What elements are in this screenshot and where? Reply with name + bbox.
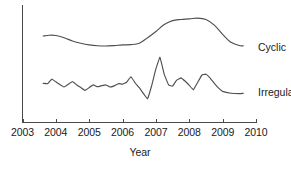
- data-series-group: [43, 18, 243, 99]
- series-line-irregular: [43, 57, 243, 98]
- x-axis-tick-label: 2007: [144, 126, 167, 138]
- x-axis-tick-label: 2010: [245, 126, 268, 138]
- x-axis-tick-label: 2009: [211, 126, 234, 138]
- series-label-irregular: Irregular: [258, 86, 291, 98]
- x-axis-tick-label: 2008: [178, 126, 201, 138]
- series-label-cyclic: Cyclic: [258, 41, 286, 53]
- axes-group: [23, 5, 257, 123]
- x-axis-tick-label: 2003: [11, 126, 34, 138]
- chart-plot-area: [0, 0, 291, 169]
- series-line-cyclic: [43, 18, 243, 46]
- x-axis-title: Year: [129, 146, 150, 158]
- chart-container: 20032004200520062007200820092010 Year Cy…: [0, 0, 291, 169]
- x-axis-tick-label: 2005: [78, 126, 101, 138]
- x-axis-tick-label: 2004: [44, 126, 67, 138]
- x-axis-tick-label: 2006: [111, 126, 134, 138]
